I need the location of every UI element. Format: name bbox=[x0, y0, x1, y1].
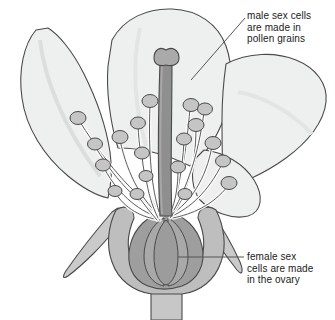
anther bbox=[96, 159, 111, 171]
anther bbox=[183, 99, 199, 112]
anther bbox=[177, 133, 192, 145]
male-label-line-1: male sex cells bbox=[247, 10, 311, 22]
anther bbox=[88, 138, 103, 150]
anther bbox=[188, 119, 204, 132]
anther bbox=[135, 147, 150, 159]
anther bbox=[130, 189, 144, 200]
anther bbox=[139, 171, 153, 182]
male-sex-cells-label: male sex cells are made in pollen grains bbox=[247, 10, 311, 45]
female-label-line-2: cells are made bbox=[247, 263, 313, 275]
female-sex-cells-label: female sex cells are made in the ovary bbox=[247, 251, 313, 286]
female-label-line-1: female sex bbox=[247, 251, 313, 263]
flower-diagram-canvas: male sex cells are made in pollen grains… bbox=[0, 0, 335, 320]
stigma bbox=[154, 48, 179, 65]
anther bbox=[112, 131, 128, 144]
anther bbox=[70, 112, 86, 125]
male-label-line-2: are made in bbox=[247, 22, 311, 34]
anther bbox=[205, 137, 221, 150]
ovary-group bbox=[129, 212, 203, 289]
anther bbox=[198, 103, 213, 115]
anther bbox=[131, 117, 146, 129]
anther bbox=[178, 189, 192, 200]
anther bbox=[171, 161, 186, 173]
anther bbox=[216, 155, 231, 167]
anther bbox=[142, 95, 158, 108]
female-label-line-3: in the ovary bbox=[247, 274, 313, 286]
anther bbox=[221, 177, 237, 190]
male-label-line-3: pollen grains bbox=[247, 33, 311, 45]
anther bbox=[108, 186, 122, 197]
